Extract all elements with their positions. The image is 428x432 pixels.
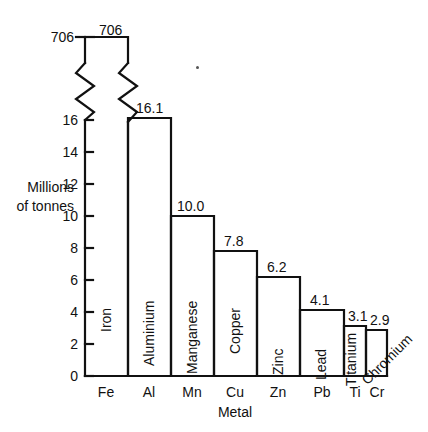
bar-label-iron: Iron xyxy=(99,308,113,332)
y-axis-title-line2: of tonnes xyxy=(0,197,74,216)
y-tick-label-706: 706 xyxy=(20,30,74,44)
value-label-zinc: 6.2 xyxy=(267,260,286,274)
x-tick-label-pb: Pb xyxy=(313,385,330,399)
x-tick-label-ti: Ti xyxy=(349,385,360,399)
value-label-lead: 4.1 xyxy=(310,293,329,307)
bar-iron-break-zigzag xyxy=(119,63,137,122)
value-label-iron: 706 xyxy=(99,23,122,37)
value-label-titanium: 3.1 xyxy=(348,309,367,323)
x-tick-label-cr: Cr xyxy=(370,385,385,399)
value-label-copper: 7.8 xyxy=(224,234,243,248)
x-tick-label-cu: Cu xyxy=(226,385,244,399)
value-label-aluminium: 16.1 xyxy=(136,101,163,115)
bar-label-lead: Lead xyxy=(314,349,328,380)
y-tick-label-6: 6 xyxy=(20,273,78,287)
y-axis-title: Millions of tonnes xyxy=(0,178,74,216)
value-label-manganese: 10.0 xyxy=(177,199,204,213)
x-axis-title: Metal xyxy=(218,405,252,419)
bar-label-manganese: Manganese xyxy=(185,301,199,374)
y-tick-label-8: 8 xyxy=(20,241,78,255)
y-tick-label-0: 0 xyxy=(20,369,78,383)
y-tick-label-2: 2 xyxy=(20,337,78,351)
x-tick-label-al: Al xyxy=(143,385,155,399)
y-tick-label-4: 4 xyxy=(20,305,78,319)
x-tick-label-fe: Fe xyxy=(98,385,114,399)
x-tick-label-zn: Zn xyxy=(270,385,286,399)
y-tick-label-14: 14 xyxy=(20,145,78,159)
bar-label-titanium: Titanium xyxy=(344,333,358,386)
value-label-chromium: 2.9 xyxy=(370,313,389,327)
y-axis-break-zigzag xyxy=(76,63,94,120)
bar-iron-top xyxy=(85,37,128,63)
scan-speck xyxy=(196,66,199,69)
bar-label-copper: Copper xyxy=(228,308,242,354)
bar-label-aluminium: Aluminium xyxy=(142,301,156,366)
bar-chart: 706 16 14 12 10 8 6 4 2 0 Millions of to… xyxy=(0,0,428,432)
bar-label-zinc: Zinc xyxy=(271,349,285,375)
y-tick-label-16: 16 xyxy=(20,113,78,127)
y-axis-title-line1: Millions xyxy=(0,178,74,197)
x-tick-label-mn: Mn xyxy=(182,385,201,399)
